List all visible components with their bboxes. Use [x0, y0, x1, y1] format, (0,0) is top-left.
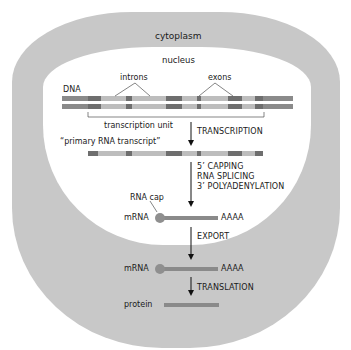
- poly-a-nuclear-label: AAAA: [221, 213, 244, 223]
- primary-rna-transcript: [88, 151, 263, 156]
- capping-label: 5’ CAPPING: [197, 162, 243, 172]
- poly-a-cytoplasm-label: AAAA: [221, 264, 244, 274]
- mrna-cytoplasm-label: mRNA: [124, 264, 149, 274]
- protein-label: protein: [124, 300, 152, 310]
- protein-bar: [164, 303, 219, 307]
- translation-label: TRANSLATION: [197, 283, 254, 293]
- translation-arrow: [188, 277, 194, 296]
- mrna-nuclear: [150, 201, 218, 223]
- exons-pointer-lines: [199, 83, 233, 96]
- dna-strand-top: [62, 96, 293, 101]
- mrna-cytoplasm: [155, 264, 218, 274]
- nucleus-label: nucleus: [162, 55, 195, 65]
- diagram-graphics: [0, 0, 351, 350]
- rna-cap-label: RNA cap: [130, 193, 164, 203]
- splicing-label: RNA SPLICING: [197, 172, 255, 182]
- transcription-unit-label: transcription unit: [104, 121, 173, 131]
- exons-label: exons: [208, 73, 231, 83]
- introns-pointer-lines: [115, 83, 150, 96]
- export-arrow: [188, 227, 194, 260]
- processing-arrow: [188, 162, 194, 207]
- transcription-label: TRANSCRIPTION: [197, 127, 263, 137]
- polyadenylation-label: 3’ POLYADENYLATION: [197, 182, 284, 192]
- dna-label: DNA: [63, 85, 81, 95]
- transcription-unit-bracket: [88, 112, 264, 117]
- introns-label: introns: [120, 73, 148, 83]
- mrna-nuclear-label: mRNA: [124, 213, 149, 223]
- dna-strand-bottom: [62, 104, 293, 109]
- dna-double-strand: [62, 96, 293, 109]
- cytoplasm-label: cytoplasm: [155, 31, 202, 41]
- primary-transcript-label: “primary RNA transcript”: [60, 137, 160, 147]
- export-label: EXPORT: [197, 232, 229, 242]
